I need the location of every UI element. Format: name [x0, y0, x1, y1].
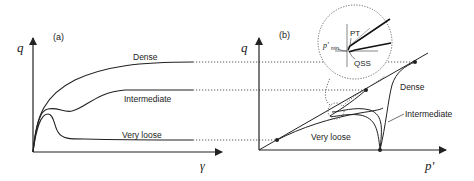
inset-pmin-label: p' [322, 41, 329, 50]
zoom-connector-right [343, 76, 385, 106]
panel-a-y-label: q [17, 40, 24, 55]
panel-a-very-loose-label: Very loose [122, 130, 162, 140]
panel-a-x-label: γ [200, 159, 205, 173]
panel-b-y-label: q [241, 40, 248, 55]
panel-a: (a) q γ Dense Intermediate Very loose [17, 32, 222, 173]
stress-strain-diagram: (a) q γ Dense Intermediate Very loose [0, 0, 474, 181]
zoom-connector-left [325, 78, 330, 105]
intermediate-pointer [388, 114, 404, 122]
inset-pmin-subscript: min [331, 45, 339, 51]
panel-b-very-loose-label: Very loose [311, 132, 351, 142]
panel-a-tag: (a) [53, 32, 64, 42]
pt-start [378, 148, 382, 152]
panel-a-very-loose-curve [33, 114, 193, 152]
panel-b-x-label: p' [424, 158, 435, 173]
inset-pt-label: PT [350, 29, 360, 38]
pt-intermediate [364, 88, 368, 92]
pt-very-loose [275, 138, 279, 142]
panel-b-dense-label: Dense [400, 82, 425, 92]
panel-a-dense-curve [33, 62, 193, 152]
panel-a-dense-label: Dense [133, 52, 158, 62]
panel-b-dense-path [380, 62, 415, 150]
panel-b-tag: (b) [279, 30, 290, 40]
pt-dense [413, 60, 417, 64]
panel-b: PT QSS p' min (b) q p' Dense Intermediat… [241, 5, 453, 173]
panel-b-intermediate-label: Intermediate [405, 109, 453, 119]
panel-a-intermediate-label: Intermediate [124, 94, 172, 104]
inset-qss-label: QSS [354, 59, 371, 68]
